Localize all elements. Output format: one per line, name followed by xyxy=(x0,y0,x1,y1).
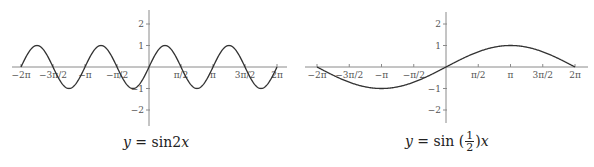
caption-y: y xyxy=(405,133,413,149)
plot-area: −2π−3π/2−π−π/2π/2π3π/22π21−1−2 xyxy=(297,0,594,130)
x-tick-label: −π xyxy=(375,70,389,80)
chart-sin-half-x: −2π−3π/2−π−π/2π/2π3π/22π21−1−2 xyxy=(297,0,594,130)
caption-y: y xyxy=(123,134,131,150)
caption-eq: = sin2 xyxy=(131,134,181,150)
x-tick-label: −π xyxy=(78,70,92,80)
x-tick-label: π xyxy=(508,70,514,80)
caption-x: x xyxy=(181,134,189,150)
x-tick-label: −2π xyxy=(11,70,30,80)
caption-eq: = sin ( xyxy=(413,133,464,149)
x-tick-label: 3π/2 xyxy=(235,70,255,80)
y-tick-label: 2 xyxy=(435,19,441,29)
y-tick-label: 1 xyxy=(138,41,144,51)
caption-sin2x: y = sin2x xyxy=(123,134,189,150)
y-tick-label: −1 xyxy=(428,84,441,94)
x-tick-label: 3π/2 xyxy=(533,70,553,80)
x-tick-label: −2π xyxy=(307,70,326,80)
x-tick-label: −3π/2 xyxy=(39,70,67,80)
x-tick-label: 2π xyxy=(569,70,581,80)
y-tick-label: 2 xyxy=(138,19,144,29)
x-tick-label: π/2 xyxy=(471,70,486,80)
fraction-denominator: 2 xyxy=(465,142,474,153)
y-tick-label: 1 xyxy=(435,41,441,51)
chart-sin2x: −2π−3π/2−π−π/2π/2π3π/22π21−1−2 xyxy=(0,0,297,130)
y-tick-label: −2 xyxy=(428,105,441,115)
y-tick-label: −2 xyxy=(131,105,144,115)
plot-area: −2π−3π/2−π−π/2π/2π3π/22π21−1−2 xyxy=(0,0,297,130)
caption-sin-half-x: y = sin (12)x xyxy=(405,130,489,153)
fraction: 12 xyxy=(465,130,474,153)
x-tick-label: −π/2 xyxy=(106,70,128,80)
caption-x: x xyxy=(481,133,489,149)
